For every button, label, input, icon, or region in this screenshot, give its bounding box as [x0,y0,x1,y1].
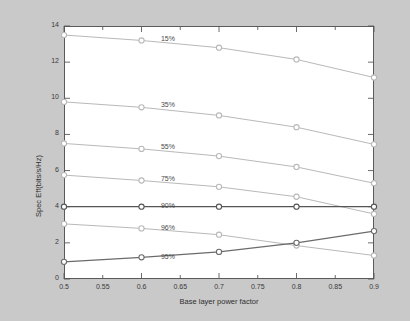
y-tick-label: 10 [42,93,59,100]
x-tick-label: 0.7 [210,283,228,290]
figure: 15%35%55%75%90%96%95% Spec Eff(bits/s/Hz… [18,12,392,309]
series-label-75pct: 75% [161,175,175,182]
y-tick-label: 0 [42,274,59,281]
y-tick-label: 14 [42,21,59,28]
chart-canvas [18,12,392,309]
x-tick-label: 0.5 [55,283,73,290]
x-tick-label: 0.55 [94,283,112,290]
series-label-96pct: 96% [161,224,175,231]
x-tick-label: 0.65 [171,283,189,290]
x-tick-label: 0.85 [326,283,344,290]
x-tick-label: 0.6 [133,283,151,290]
series-label-55pct: 55% [161,143,175,150]
series-label-35pct: 35% [161,101,175,108]
x-tick-label: 0.8 [288,283,306,290]
series-label-95pct: 95% [161,253,175,260]
series-75pct [61,172,376,216]
axis-ticks [64,26,374,279]
series-90pct [61,204,376,209]
x-tick-label: 0.75 [249,283,267,290]
x-tick-label: 0.9 [365,283,383,290]
series-label-90pct: 90% [161,202,175,209]
y-tick-label: 8 [42,129,59,136]
x-axis-label: Base layer power factor [64,297,374,306]
series-label-15pct: 15% [161,35,175,42]
y-tick-label: 2 [42,238,59,245]
series-15pct [61,32,376,80]
y-tick-label: 4 [42,202,59,209]
y-tick-label: 12 [42,57,59,64]
y-tick-label: 6 [42,166,59,173]
series-35pct [61,99,376,147]
series-55pct [61,141,376,186]
